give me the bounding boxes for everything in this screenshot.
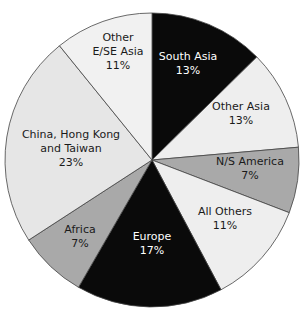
pie-chart: South Asia13%Other Asia13%N/S America7%A… <box>0 0 304 317</box>
